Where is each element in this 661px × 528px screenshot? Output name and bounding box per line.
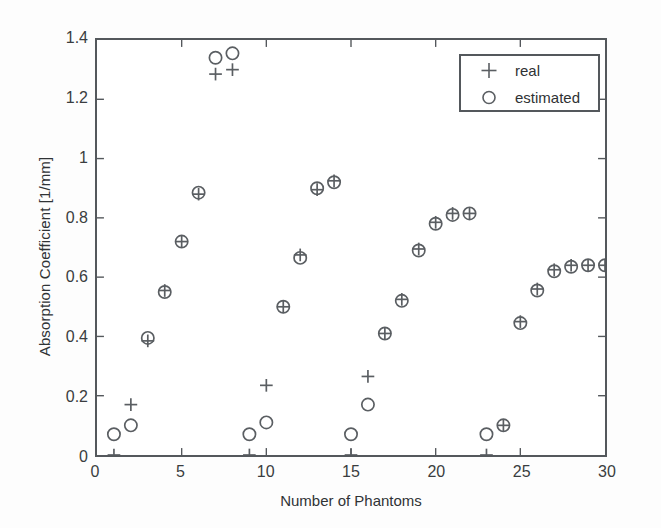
- y-tick-label: 1.2: [66, 89, 88, 107]
- data-point-real: [125, 398, 138, 411]
- legend-label-real: real: [515, 57, 540, 84]
- data-point-real: [209, 68, 222, 81]
- x-tick-label: 15: [342, 463, 360, 481]
- data-point-estimated: [345, 428, 357, 440]
- y-tick-label: 0.8: [66, 209, 88, 227]
- data-point-real: [108, 449, 121, 455]
- data-point-estimated: [125, 419, 137, 431]
- data-point-real: [345, 449, 358, 455]
- y-tick-label: 1: [79, 149, 88, 167]
- y-axis-title: Absorption Coefficient [1/mm]: [36, 87, 53, 427]
- x-tick-label: 30: [598, 463, 616, 481]
- data-point-real: [226, 63, 239, 76]
- circle-marker-icon: [473, 84, 505, 111]
- data-point-real: [260, 379, 273, 392]
- x-tick-label: 0: [91, 463, 100, 481]
- x-tick-label: 10: [257, 463, 275, 481]
- data-point-estimated: [209, 52, 221, 64]
- data-point-estimated: [260, 416, 272, 428]
- data-point-estimated: [362, 398, 374, 410]
- x-tick-label: 20: [427, 463, 445, 481]
- data-point-estimated: [226, 47, 238, 59]
- y-tick-label: 0.4: [66, 328, 88, 346]
- legend-label-estimated: estimated: [515, 84, 580, 111]
- y-tick-label: 0.2: [66, 388, 88, 406]
- series-real: [108, 63, 605, 455]
- plus-marker-icon: [473, 57, 505, 84]
- y-tick-label: 1.4: [66, 29, 88, 47]
- chart-legend: real estimated: [459, 54, 600, 112]
- x-axis-title: Number of Phantoms: [95, 492, 607, 509]
- legend-entry-estimated: estimated: [461, 84, 598, 111]
- x-axis-tick-labels: 051015202530: [0, 463, 661, 487]
- y-tick-label: 0.6: [66, 268, 88, 286]
- data-point-real: [480, 449, 493, 455]
- x-tick-label: 5: [176, 463, 185, 481]
- data-point-estimated: [243, 428, 255, 440]
- data-point-estimated: [108, 428, 120, 440]
- legend-entry-real: real: [461, 57, 598, 84]
- data-point-real: [243, 449, 256, 455]
- chart-page: 00.20.40.60.811.21.4 Absorption Coeffici…: [0, 0, 661, 528]
- x-tick-label: 25: [513, 463, 531, 481]
- data-point-real: [362, 370, 375, 383]
- data-point-estimated: [480, 428, 492, 440]
